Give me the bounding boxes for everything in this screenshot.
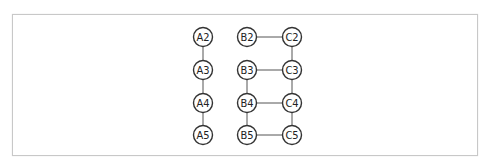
node-label: A4 <box>196 97 209 110</box>
node-label: C2 <box>285 31 298 44</box>
node-label: A2 <box>196 31 209 44</box>
node-label: A5 <box>196 129 209 142</box>
node-A5: A5 <box>194 126 213 145</box>
node-B3: B3 <box>238 61 257 80</box>
node-label: C3 <box>285 64 298 77</box>
node-label: B2 <box>240 31 253 44</box>
edges-group <box>203 37 292 135</box>
node-A3: A3 <box>194 61 213 80</box>
node-C3: C3 <box>283 61 302 80</box>
node-label: A3 <box>196 64 209 77</box>
node-C4: C4 <box>283 94 302 113</box>
graph-canvas: A2A3A4A5B2B3B4B5C2C3C4C5 <box>0 0 490 167</box>
node-C5: C5 <box>283 126 302 145</box>
node-label: B5 <box>240 129 253 142</box>
node-B4: B4 <box>238 94 257 113</box>
node-C2: C2 <box>283 28 302 47</box>
node-label: B3 <box>240 64 253 77</box>
node-B5: B5 <box>238 126 257 145</box>
node-label: C5 <box>285 129 298 142</box>
node-A2: A2 <box>194 28 213 47</box>
node-A4: A4 <box>194 94 213 113</box>
node-label: B4 <box>240 97 253 110</box>
node-B2: B2 <box>238 28 257 47</box>
node-label: C4 <box>285 97 298 110</box>
